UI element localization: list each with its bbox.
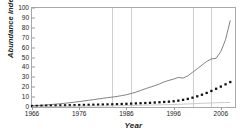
- data-marker: [158, 101, 160, 103]
- data-marker: [229, 81, 231, 83]
- data-marker: [201, 94, 203, 96]
- y-tick-label: 20: [22, 84, 29, 91]
- data-marker: [196, 95, 198, 97]
- y-tick-label: 80: [22, 25, 29, 32]
- data-marker: [111, 103, 113, 105]
- data-marker: [206, 92, 208, 94]
- data-marker: [97, 103, 99, 105]
- data-marker: [144, 102, 146, 104]
- data-marker: [125, 103, 127, 105]
- data-marker: [88, 104, 90, 106]
- x-tick-mark: [174, 107, 175, 110]
- series-layer: [32, 8, 235, 107]
- data-marker: [182, 99, 184, 101]
- data-marker: [154, 101, 156, 103]
- y-tick-label: 90: [22, 15, 29, 22]
- data-marker: [92, 104, 94, 106]
- x-tick-mark: [79, 107, 80, 110]
- x-tick-label: 2006: [214, 111, 228, 118]
- y-axis-title: Abundance index: [6, 0, 18, 69]
- data-marker: [177, 100, 179, 102]
- plot-area: 0102030405060708090100 19661976198619962…: [31, 7, 236, 108]
- data-marker: [139, 102, 141, 104]
- data-marker: [191, 97, 193, 99]
- data-marker: [210, 90, 212, 92]
- data-marker: [224, 83, 226, 85]
- y-tick-label: 100: [18, 5, 29, 12]
- data-marker: [215, 88, 217, 90]
- data-marker: [187, 98, 189, 100]
- x-tick-mark: [221, 107, 222, 110]
- abundance-index-chart: Abundance index 0102030405060708090100 1…: [0, 0, 252, 136]
- data-marker: [135, 102, 137, 104]
- x-axis-title: Year: [31, 121, 236, 130]
- x-tick-label: 1966: [25, 111, 39, 118]
- y-tick-label: 40: [22, 64, 29, 71]
- data-marker: [163, 101, 165, 103]
- x-tick-mark: [126, 107, 127, 110]
- data-marker: [121, 103, 123, 105]
- data-marker: [106, 103, 108, 105]
- x-tick-label: 1976: [72, 111, 86, 118]
- x-tick-label: 1996: [166, 111, 180, 118]
- x-tick-mark: [32, 107, 33, 110]
- data-marker: [102, 103, 104, 105]
- data-marker: [172, 100, 174, 102]
- y-tick-label: 60: [22, 44, 29, 51]
- series-line: [32, 20, 230, 105]
- x-tick-label: 1986: [119, 111, 133, 118]
- data-marker: [149, 102, 151, 104]
- y-tick-label: 70: [22, 34, 29, 41]
- data-marker: [220, 85, 222, 87]
- y-tick-label: 50: [22, 54, 29, 61]
- data-marker: [83, 104, 85, 106]
- y-tick-label: 10: [22, 94, 29, 101]
- y-tick-label: 30: [22, 74, 29, 81]
- series-upper-trend-line: [32, 20, 230, 105]
- data-marker: [168, 101, 170, 103]
- data-marker: [116, 103, 118, 105]
- data-marker: [130, 102, 132, 104]
